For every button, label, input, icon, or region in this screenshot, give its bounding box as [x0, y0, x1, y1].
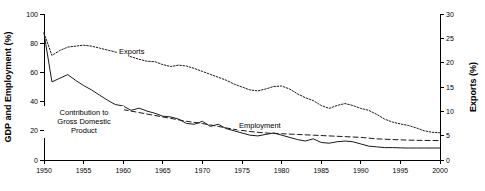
- x-tick-label: 1960: [115, 167, 131, 174]
- x-tick-label: 1995: [393, 167, 409, 174]
- x-tick-label: 1985: [313, 167, 329, 174]
- right-axis-title: Exports (%): [468, 62, 478, 112]
- left-tick-label: 100: [26, 11, 38, 18]
- x-tick-label: 1970: [195, 167, 211, 174]
- x-tick-label: 1965: [155, 167, 171, 174]
- left-tick-label: 40: [30, 98, 38, 105]
- employment-series-label: Employment: [239, 121, 282, 130]
- x-tick-label: 1975: [234, 167, 250, 174]
- left-tick-label: 0: [34, 157, 38, 164]
- line-chart: 020406080100 051015202530 19501955196019…: [0, 0, 485, 191]
- x-tick-label: 1950: [36, 167, 52, 174]
- x-tick-label: 2000: [432, 167, 448, 174]
- gdp-series-label-line3: Product: [71, 126, 98, 135]
- exports-series-label: Exports: [119, 47, 145, 56]
- right-tick-label: 5: [446, 132, 450, 139]
- x-tick-label: 1980: [274, 167, 290, 174]
- left-tick-label: 60: [30, 69, 38, 76]
- right-tick-label: 15: [446, 84, 454, 91]
- x-tick-label: 1955: [76, 167, 92, 174]
- chart-container: 020406080100 051015202530 19501955196019…: [0, 0, 485, 191]
- right-tick-label: 25: [446, 35, 454, 42]
- right-tick-label: 20: [446, 59, 454, 66]
- left-tick-label: 20: [30, 127, 38, 134]
- left-tick-label: 80: [30, 40, 38, 47]
- gdp-series-label-line1: Contribution to: [60, 108, 109, 117]
- left-axis-title: GDP and Employment (%): [3, 32, 13, 143]
- right-tick-label: 0: [446, 157, 450, 164]
- x-tick-label: 1990: [353, 167, 369, 174]
- right-tick-label: 30: [446, 11, 454, 18]
- gdp-series-label-line2: Gross Domestic: [57, 117, 111, 126]
- right-tick-label: 10: [446, 108, 454, 115]
